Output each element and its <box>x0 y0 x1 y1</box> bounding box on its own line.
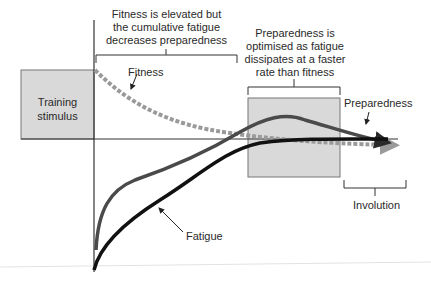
annotation-line: decreases preparedness <box>96 34 237 47</box>
diagram-canvas: Training stimulus Fitness is elevated bu… <box>0 0 431 282</box>
training-stimulus-label: Training stimulus <box>21 95 94 123</box>
annotation-line: dissipates at a faster <box>240 53 350 66</box>
annotation-line: the cumulative fatigue <box>96 21 237 34</box>
preparedness-label: Preparedness <box>344 97 413 110</box>
involution-label: Involution <box>353 199 400 212</box>
training-label-line1: Training <box>21 95 94 109</box>
bracket-involution <box>344 180 406 196</box>
annotation-line: optimised as fatigue <box>240 40 350 53</box>
fatigue-label: Fatigue <box>186 230 223 243</box>
annotation-line: rate than fitness <box>240 66 350 79</box>
annotation-line: Preparedness is <box>240 27 350 40</box>
bracket-fitness-elevated <box>96 49 237 63</box>
fitness-label: Fitness <box>128 66 163 79</box>
preparedness-curve <box>96 116 385 250</box>
fatigue-pointer <box>159 208 183 232</box>
preparedness-pointer <box>366 112 369 124</box>
training-label-line2: stimulus <box>21 109 94 123</box>
annotation-fitness-elevated: Fitness is elevated but the cumulative f… <box>96 8 237 47</box>
page-edge-line <box>0 262 431 267</box>
fatigue-curve <box>94 139 388 270</box>
annotation-preparedness-optimised: Preparedness is optimised as fatigue dis… <box>240 27 350 79</box>
bracket-preparedness-optimised <box>248 79 340 95</box>
annotation-line: Fitness is elevated but <box>96 8 237 21</box>
